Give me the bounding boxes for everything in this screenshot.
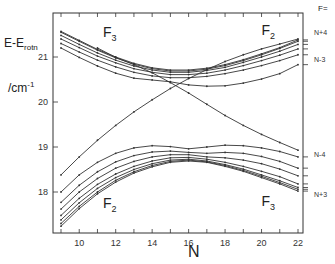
data-point — [133, 71, 135, 73]
data-point — [60, 47, 62, 49]
data-point — [242, 159, 244, 161]
data-point — [60, 219, 62, 221]
data-point — [78, 191, 80, 193]
right-axis-label: N+4 — [314, 29, 327, 36]
data-point — [279, 180, 281, 182]
data-point — [224, 152, 226, 154]
data-point — [224, 69, 226, 71]
data-point — [224, 65, 226, 67]
data-point — [78, 57, 80, 59]
data-point — [188, 154, 190, 156]
data-point — [115, 125, 117, 127]
data-point — [279, 60, 281, 62]
data-point — [261, 134, 263, 136]
data-point — [97, 139, 99, 141]
data-point — [151, 79, 153, 81]
data-point — [97, 161, 99, 163]
data-point — [97, 188, 99, 190]
x-axis-label: N — [188, 243, 200, 261]
data-point — [279, 54, 281, 56]
data-point — [206, 152, 208, 154]
data-point — [297, 183, 299, 185]
data-point — [261, 147, 263, 149]
data-point — [78, 174, 80, 176]
x-tick-label: 22 — [293, 238, 303, 248]
data-point — [78, 156, 80, 158]
data-point — [133, 147, 135, 149]
data-point — [97, 52, 99, 54]
data-point — [133, 68, 135, 70]
data-point — [188, 78, 190, 80]
data-point — [133, 64, 135, 66]
chart-plot: 1012141618202218192021N+4N-3N-4N+3F3F2F2… — [0, 0, 335, 264]
x-tick-label: 12 — [111, 238, 121, 248]
data-point — [297, 167, 299, 169]
data-point — [242, 82, 244, 84]
data-point — [297, 149, 299, 151]
y-axis-label: E-Erotn — [4, 36, 38, 52]
data-point — [206, 75, 208, 77]
right-axis-label: N+3 — [314, 191, 327, 198]
data-point — [279, 48, 281, 50]
data-point — [115, 167, 117, 169]
right-axis-label: N-3 — [314, 56, 325, 63]
data-point — [115, 59, 117, 61]
state-annotation: F2 — [262, 22, 276, 41]
data-point — [297, 38, 299, 40]
data-point — [169, 71, 171, 73]
data-point — [60, 191, 62, 193]
data-point — [206, 103, 208, 105]
data-point — [224, 61, 226, 63]
data-point — [224, 66, 226, 68]
data-point — [97, 65, 99, 67]
data-point — [169, 150, 171, 152]
data-point — [297, 48, 299, 50]
data-point — [60, 174, 62, 176]
data-point — [151, 166, 153, 168]
data-point — [279, 183, 281, 185]
data-point — [115, 57, 117, 59]
data-point — [97, 183, 99, 185]
data-point — [297, 40, 299, 42]
data-point — [115, 72, 117, 74]
y-label-subscript: rotn — [24, 43, 38, 52]
data-point — [261, 48, 263, 50]
data-point — [224, 73, 226, 75]
data-point — [151, 156, 153, 158]
data-point — [188, 156, 190, 158]
data-point — [242, 125, 244, 127]
right-axis-label: N-4 — [314, 151, 325, 158]
data-point — [297, 64, 299, 66]
data-point — [133, 161, 135, 163]
data-point — [78, 47, 80, 49]
data-point — [78, 197, 80, 199]
data-point — [151, 163, 153, 165]
data-point — [115, 181, 117, 183]
data-point — [188, 71, 190, 73]
data-point — [78, 206, 80, 208]
data-point — [242, 170, 244, 172]
data-point — [297, 44, 299, 46]
data-point — [188, 84, 190, 86]
data-point — [169, 154, 171, 156]
data-point — [78, 51, 80, 53]
data-point — [97, 47, 99, 49]
data-point — [133, 172, 135, 174]
data-point — [206, 146, 208, 148]
data-point — [60, 223, 62, 225]
data-point — [206, 69, 208, 71]
data-point — [297, 187, 299, 189]
data-point — [78, 202, 80, 204]
data-point — [60, 43, 62, 45]
data-point — [115, 173, 117, 175]
data-point — [188, 148, 190, 150]
data-point — [97, 59, 99, 61]
data-point — [169, 157, 171, 159]
state-annotation: F2 — [103, 195, 117, 214]
data-point — [261, 177, 263, 179]
state-annotation: F3 — [103, 24, 117, 43]
data-point — [151, 145, 153, 147]
y-tick-label: 21 — [38, 52, 48, 62]
data-point — [151, 151, 153, 153]
data-point — [261, 54, 263, 56]
